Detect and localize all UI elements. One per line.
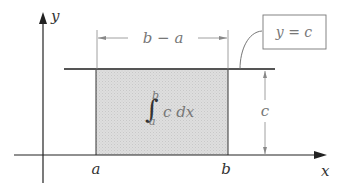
x-axis-label: x xyxy=(321,162,330,180)
integrand: c dx xyxy=(163,103,195,121)
height-label: c xyxy=(261,102,270,120)
arrowhead-down-icon xyxy=(263,147,267,154)
tick-label-b: b xyxy=(221,160,231,178)
callout-connector xyxy=(240,31,262,69)
y-axis xyxy=(39,12,47,183)
arrowhead-right-icon xyxy=(219,36,227,40)
integral-upper-limit: b xyxy=(152,89,159,102)
tick-label-a: a xyxy=(92,160,101,178)
y-axis-label: y xyxy=(50,7,60,25)
y-axis-arrow-icon xyxy=(39,12,47,24)
arrowhead-left-icon xyxy=(98,36,106,40)
width-label: b − a xyxy=(143,29,184,47)
callout-label: y = c xyxy=(275,24,313,40)
integral-lower-limit: a xyxy=(149,115,156,128)
x-axis-arrow-icon xyxy=(314,151,327,159)
arrowhead-up-icon xyxy=(263,71,267,78)
integral-constant-diagram: b − a c y = c ∫ b a c dx y x a b xyxy=(0,0,339,190)
shaded-area xyxy=(96,69,228,155)
